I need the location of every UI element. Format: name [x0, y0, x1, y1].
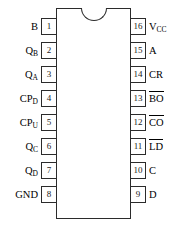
pin-box-11: 11 — [130, 138, 146, 155]
pin-signal-name: C — [149, 165, 156, 176]
pin-box-2: 2 — [41, 42, 57, 59]
pin-label-4: CPD — [20, 90, 38, 107]
pin-number: 16 — [134, 21, 143, 31]
pin-box-16: 16 — [130, 18, 146, 35]
pin-label-11: LD — [149, 138, 163, 155]
pin-number: 7 — [47, 165, 52, 175]
pin-signal-name: D — [149, 189, 157, 200]
pin-signal-name: CP — [20, 93, 33, 104]
pin-signal-subscript: D — [33, 97, 38, 106]
pin-number: 15 — [134, 45, 143, 55]
pin-signal-subscript: C — [33, 145, 38, 154]
pin-box-9: 9 — [130, 186, 146, 203]
pin-label-10: C — [149, 162, 156, 179]
pin-label-7: QD — [25, 162, 38, 179]
ic-package-body — [56, 8, 131, 219]
pin-box-7: 7 — [41, 162, 57, 179]
pin-number: 9 — [136, 189, 141, 199]
pin-label-12: CO — [149, 114, 164, 131]
pin-signal-name: Q — [25, 45, 33, 56]
pin-box-14: 14 — [130, 66, 146, 83]
pin-box-4: 4 — [41, 90, 57, 107]
pin-label-2: QB — [25, 42, 38, 59]
pin-label-13: BO — [149, 90, 164, 107]
pin-signal-name: LD — [149, 139, 163, 153]
pin-box-3: 3 — [41, 66, 57, 83]
pin-signal-subscript: U — [33, 121, 38, 130]
pin-signal-name: CP — [20, 117, 33, 128]
pin-box-12: 12 — [130, 114, 146, 131]
pin-label-8: GND — [15, 186, 38, 203]
pin-signal-name: Q — [25, 69, 33, 80]
pin-label-3: QA — [25, 66, 38, 83]
ic-pinout-diagram: 1B2QB3QA4CPD5CPU6QC7QD8GND9D10C11LD12CO1… — [0, 0, 173, 234]
pin-signal-name: V — [149, 21, 157, 32]
pin-label-5: CPU — [20, 114, 38, 131]
pin-number: 13 — [134, 93, 143, 103]
pin-signal-subscript: A — [33, 73, 38, 82]
pin-signal-name: GND — [15, 189, 38, 200]
pin-number: 12 — [134, 117, 143, 127]
pin-box-5: 5 — [41, 114, 57, 131]
pin-number: 4 — [47, 93, 52, 103]
pin-number: 8 — [47, 189, 52, 199]
pin-signal-subscript: CC — [157, 25, 167, 34]
pin-label-15: A — [149, 42, 157, 59]
pin-number: 11 — [134, 141, 143, 151]
pin-number: 3 — [47, 69, 52, 79]
pin-box-13: 13 — [130, 90, 146, 107]
pin-number: 1 — [47, 21, 52, 31]
pin-label-9: D — [149, 186, 157, 203]
pin-signal-name: BO — [149, 91, 164, 105]
pin-signal-subscript: B — [33, 49, 38, 58]
pin-box-10: 10 — [130, 162, 146, 179]
pin-signal-name: Q — [25, 141, 33, 152]
pin-signal-subscript: D — [33, 169, 38, 178]
pin-box-1: 1 — [41, 18, 57, 35]
pin-signal-name: A — [149, 45, 157, 56]
pin-box-15: 15 — [130, 42, 146, 59]
pin-number: 6 — [47, 141, 52, 151]
pin-signal-name: CO — [149, 115, 164, 129]
pin-box-8: 8 — [41, 186, 57, 203]
pin-signal-name: B — [31, 21, 38, 32]
pin-box-6: 6 — [41, 138, 57, 155]
pin-signal-name: Q — [25, 165, 33, 176]
pin-label-16: VCC — [149, 18, 167, 35]
pin-number: 5 — [47, 117, 52, 127]
pin-number: 2 — [47, 45, 52, 55]
pin-signal-name: CR — [149, 69, 163, 80]
pin-label-1: B — [31, 18, 38, 35]
pin-label-6: QC — [25, 138, 38, 155]
pin-label-14: CR — [149, 66, 163, 83]
pin-number: 14 — [134, 69, 143, 79]
pin-number: 10 — [134, 165, 143, 175]
ic-notch-icon — [81, 8, 107, 21]
